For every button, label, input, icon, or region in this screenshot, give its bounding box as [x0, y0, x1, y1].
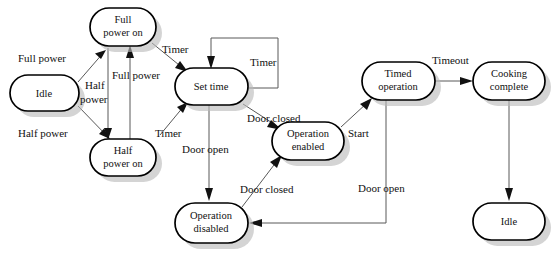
node-label-cooking-complete-line1: Cooking [491, 68, 528, 79]
state-diagram-canvas: Full power on Idle Half power on Set tim [0, 0, 554, 260]
state-node-operation-enabled[interactable]: Operation enabled [272, 122, 350, 166]
edge-label-idle-to-half-power-on: Half power [18, 127, 68, 139]
node-label-timed-operation-line1: Timed [384, 68, 412, 79]
edge-label-set-time-self-loop: Timer [250, 56, 277, 68]
state-node-idle-start[interactable]: Idle [10, 75, 85, 117]
node-label-operation-disabled-line1: Operation [190, 210, 233, 221]
state-node-half-power-on[interactable]: Half power on [90, 139, 162, 182]
edge-label-set-time-to-operation-enabled: Door closed [247, 112, 301, 124]
edge-label-timed-operation-to-operation-disabled: Door open [358, 182, 405, 194]
node-label-full-power-on-line1: Full [115, 14, 132, 25]
node-label-half-power-on-line1: Half [114, 145, 133, 156]
edge-operation-disabled-to-operation-enabled [242, 155, 282, 207]
state-node-cooking-complete[interactable]: Cooking complete [473, 62, 551, 106]
edge-label-operation-enabled-to-timed-operation: Start [348, 127, 369, 139]
node-label-cooking-complete-line2: complete [490, 81, 529, 92]
edge-idle-to-half-power-on [78, 106, 110, 139]
state-machine-diagram: Full power on Idle Half power on Set tim [0, 0, 554, 260]
edge-label-set-time-to-operation-disabled: Door open [182, 143, 229, 155]
node-label-full-power-on-line2: power on [103, 27, 143, 38]
edge-idle-to-full-power-on [78, 50, 106, 82]
node-label-set-time: Set time [194, 81, 229, 92]
edge-label-half-power-on-to-full-power-on: Full power [112, 69, 160, 81]
edge-label-idle-to-full-power-on: Full power [18, 52, 66, 64]
state-node-set-time[interactable]: Set time [175, 68, 254, 111]
edge-label-half-power-on-to-set-time: Timer [155, 127, 182, 139]
edge-label-full-power-on-to-half-power-on: Half power [80, 79, 108, 105]
edge-operation-enabled-to-timed-operation [341, 98, 372, 127]
edge-label-operation-disabled-to-operation-enabled: Door closed [240, 183, 294, 195]
node-label-timed-operation-line2: operation [378, 81, 418, 92]
node-label-operation-disabled-line2: disabled [194, 223, 230, 234]
node-label-operation-enabled-line2: enabled [292, 141, 325, 152]
node-label-operation-enabled-line1: Operation [287, 128, 330, 139]
node-layer: Full power on Idle Half power on Set tim [10, 8, 551, 249]
node-label-idle-start: Idle [36, 88, 53, 99]
edge-half-power-on-to-full-power-on [126, 45, 134, 139]
edge-label-timed-operation-to-cooking-complete: Timeout [432, 54, 469, 66]
node-label-idle-end: Idle [501, 216, 518, 227]
state-node-timed-operation[interactable]: Timed operation [362, 62, 441, 106]
node-label-half-power-on-line2: power on [103, 158, 143, 169]
state-node-full-power-on[interactable]: Full power on [90, 8, 162, 52]
edge-label-full-power-on-to-set-time: Timer [162, 43, 189, 55]
state-node-idle-end[interactable]: Idle [473, 203, 551, 246]
edge-cooking-complete-to-idle [505, 100, 513, 201]
state-node-operation-disabled[interactable]: Operation disabled [175, 203, 254, 249]
